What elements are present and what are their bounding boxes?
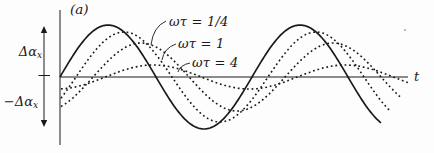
panel-label: (a) (70, 3, 89, 17)
y-upper-subscript: x (37, 50, 42, 60)
arrow-up-head-icon (41, 26, 47, 33)
curve-label-omega-tau-quarter: ωτ = 1/4 (169, 15, 228, 28)
curve-label-omega-tau-one: ωτ = 1 (178, 37, 224, 50)
leader-omega-tau-quarter (151, 21, 166, 45)
y-upper-text: Δα (19, 44, 37, 59)
y-axis-lower-label: −Δαx (2, 95, 38, 110)
relaxation-response-figure: (a) Δαx −Δαx t ωτ = 1/4 ωτ = 1 ωτ = 4 (0, 0, 434, 153)
y-lower-subscript: x (33, 100, 38, 110)
ink-speck (404, 29, 406, 31)
arrow-down-head-icon (41, 120, 47, 127)
curve-label-omega-tau-four: ωτ = 4 (192, 56, 238, 69)
x-axis-label: t (414, 70, 419, 83)
y-lower-text: −Δα (4, 94, 33, 109)
y-axis-upper-label: Δαx (6, 45, 42, 60)
